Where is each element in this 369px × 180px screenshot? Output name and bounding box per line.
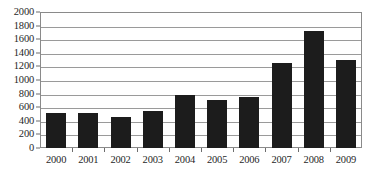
- x-tick-mark: [72, 148, 73, 152]
- y-tick-label: 800: [19, 88, 34, 99]
- y-tick-label: 200: [19, 129, 34, 140]
- x-tick-mark: [104, 148, 105, 152]
- bar-chart: 0200400600800100012001400160018002000 20…: [0, 0, 369, 180]
- x-tick-mark: [298, 148, 299, 152]
- y-tick-label: 600: [19, 102, 34, 113]
- bar-2007: [272, 63, 292, 148]
- x-tick-mark: [330, 148, 331, 152]
- x-tick-label-2007: 2007: [271, 154, 291, 166]
- y-tick-label: 0: [29, 143, 34, 154]
- bar-2001: [78, 113, 98, 148]
- y-tick-label: 1200: [14, 61, 34, 72]
- bar-2008: [304, 31, 324, 148]
- bar-2002: [111, 117, 131, 148]
- bar-2003: [143, 111, 163, 148]
- x-tick-mark: [233, 148, 234, 152]
- bar-2004: [175, 95, 195, 148]
- x-tick-label-2009: 2009: [336, 154, 356, 166]
- x-tick-label-2004: 2004: [175, 154, 195, 166]
- x-tick-label-2002: 2002: [110, 154, 130, 166]
- y-tick-label: 1600: [14, 34, 34, 45]
- y-axis: 0200400600800100012001400160018002000: [0, 12, 40, 148]
- x-tick-label-2005: 2005: [207, 154, 227, 166]
- y-tick-label: 2000: [14, 7, 34, 18]
- x-tick-label-2008: 2008: [304, 154, 324, 166]
- x-axis: 2000200120022003200420052006200720082009: [40, 148, 362, 180]
- bars-layer: [40, 12, 362, 148]
- x-tick-label-2000: 2000: [46, 154, 66, 166]
- bar-2005: [207, 100, 227, 148]
- x-tick-label-2001: 2001: [78, 154, 98, 166]
- bar-2000: [46, 113, 66, 148]
- x-tick-label-2003: 2003: [143, 154, 163, 166]
- y-tick-label: 1000: [14, 75, 34, 86]
- x-tick-mark: [265, 148, 266, 152]
- bar-2006: [239, 97, 259, 148]
- y-tick-label: 400: [19, 116, 34, 127]
- x-tick-mark: [137, 148, 138, 152]
- y-tick-label: 1400: [14, 48, 34, 59]
- x-tick-mark: [169, 148, 170, 152]
- y-tick-label: 1800: [14, 20, 34, 31]
- bar-2009: [336, 60, 356, 148]
- x-tick-label-2006: 2006: [239, 154, 259, 166]
- x-tick-mark: [201, 148, 202, 152]
